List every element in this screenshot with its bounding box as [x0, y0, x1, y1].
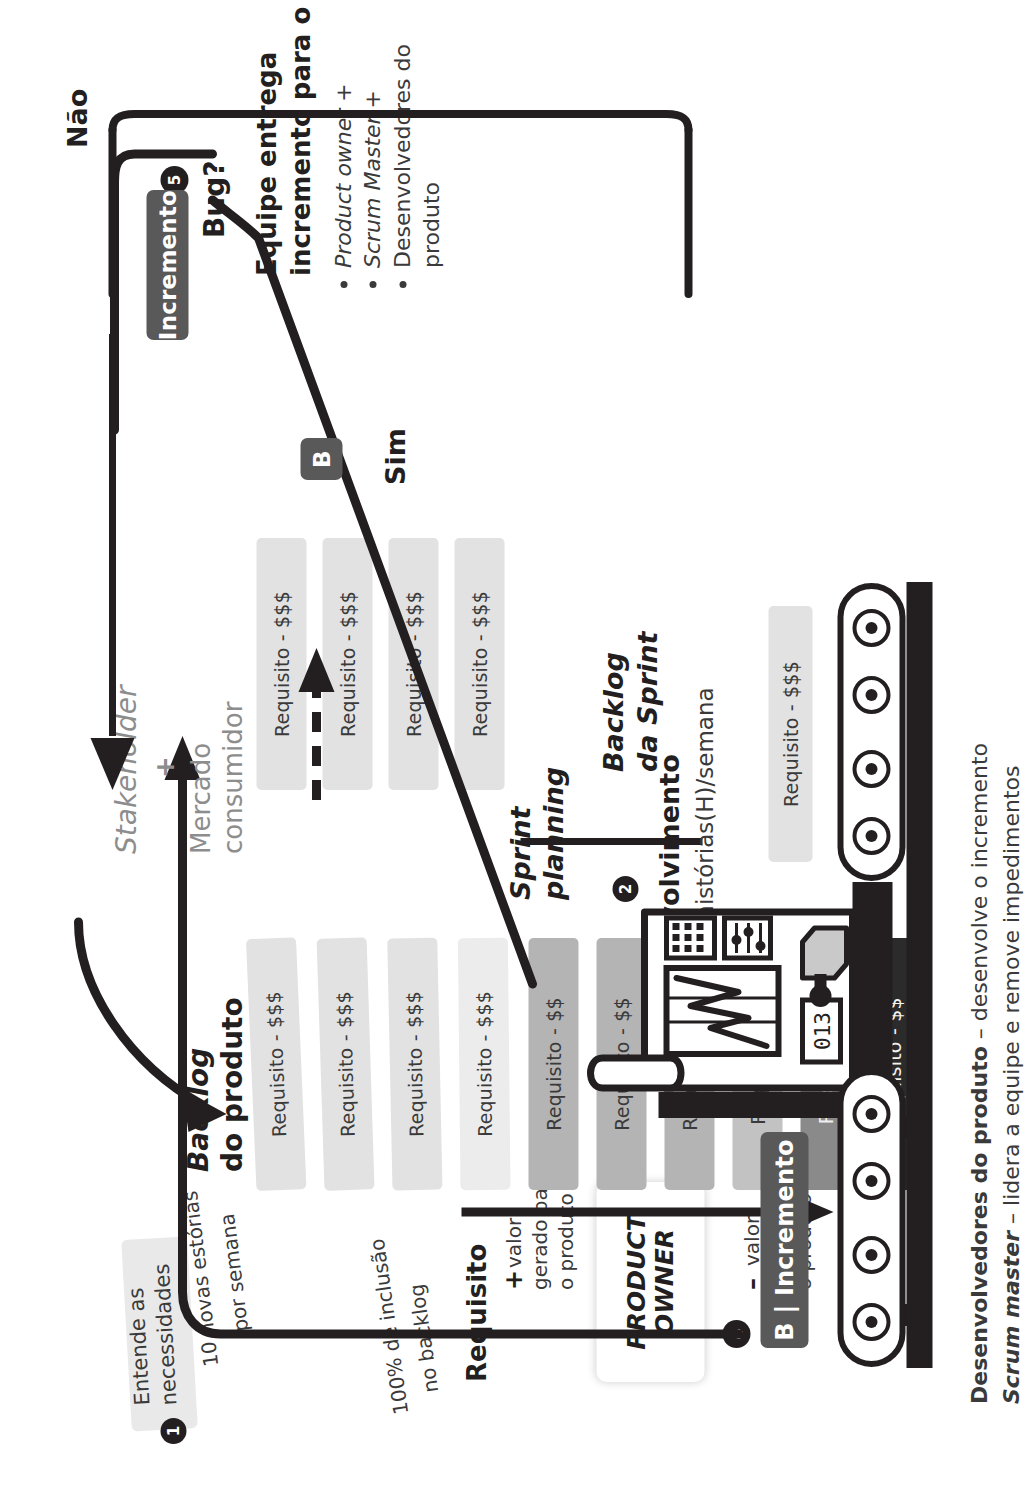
- no-branch-label: Não: [62, 89, 92, 148]
- b-chip: B: [300, 438, 342, 480]
- roles-sm-rest: – lidera a equipe e remove impedimentos: [998, 765, 1023, 1230]
- conveyor-rollers-top: [836, 1068, 906, 1368]
- roles-sm-bold: Scrum master: [998, 1231, 1023, 1404]
- roles-footnote-sm: Scrum master – lidera a equipe e remove …: [974, 765, 1028, 1432]
- delivery-to-stakeholder-arrow: [84, 330, 140, 800]
- conveyor-spine: [906, 582, 932, 1368]
- increment-chip: B | Incremento: [760, 1132, 808, 1348]
- delivery-bracket: [100, 110, 700, 330]
- machine-counter-digits: 013: [810, 1012, 834, 1050]
- step-1-badge: 1: [160, 1418, 186, 1444]
- stakeholder-plus: +: [150, 756, 179, 778]
- conveyor-requisito-card: Requisito - $$$: [768, 606, 812, 862]
- conveyor-rollers-bottom: [836, 582, 906, 882]
- stakeholder-line3: consumidor: [218, 702, 247, 854]
- yes-branch-label: Sim: [380, 428, 410, 485]
- stakeholder-line2: Mercado: [186, 743, 215, 854]
